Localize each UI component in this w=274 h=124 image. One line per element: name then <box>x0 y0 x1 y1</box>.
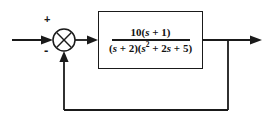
feedback-arrowhead-icon <box>59 51 68 62</box>
transfer-function-expression: 10(s + 1) (s + 2)(s2 + 2s + 5) <box>107 26 194 55</box>
block-input-arrowhead-icon <box>87 35 98 44</box>
output-arrowhead-icon <box>250 35 262 44</box>
summing-junction-minus-sign: - <box>44 44 48 57</box>
transfer-function-denominator: (s + 2)(s2 + 2s + 5) <box>107 41 194 55</box>
numerator-coefficient: 10 <box>131 26 142 38</box>
block-diagram: + - 10(s + 1) (s + 2)(s2 + 2s + 5) <box>0 0 274 124</box>
summing-junction-plus-sign: + <box>44 14 50 25</box>
transfer-function-block: 10(s + 1) (s + 2)(s2 + 2s + 5) <box>98 11 203 69</box>
transfer-function-numerator: 10(s + 1) <box>127 26 175 40</box>
